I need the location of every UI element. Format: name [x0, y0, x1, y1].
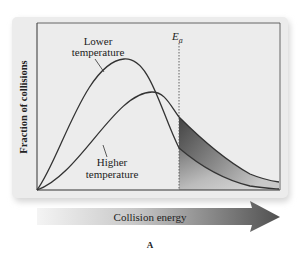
higher-temperature-label-line1: Higher [97, 156, 128, 168]
lower-temperature-label-line2: temperature [72, 46, 125, 58]
panel-background [12, 17, 288, 198]
panel-label: A [147, 240, 154, 250]
boltzmann-distribution-figure: Ea Lower temperature Higher temperature … [0, 0, 301, 260]
x-axis-label: Collision energy [114, 211, 187, 223]
y-axis-label: Fraction of collisions [18, 60, 29, 153]
higher-temperature-label-line2: temperature [86, 168, 139, 180]
